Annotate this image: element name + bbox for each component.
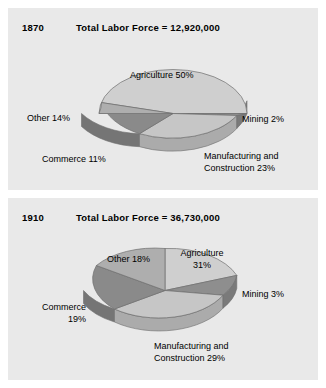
panel-1870: 1870 Total Labor Force = 12,920,000 xyxy=(8,8,318,190)
label-other-1870: Other 14% xyxy=(27,113,70,125)
label-agriculture-1870: Agriculture 50% xyxy=(130,70,194,82)
figure-root: 1870 Total Labor Force = 12,920,000 xyxy=(0,0,326,388)
label-commerce-1910-line2: 19% xyxy=(68,314,86,324)
label-commerce-1870: Commerce 11% xyxy=(42,154,106,166)
label-agriculture-1910-line1: Agriculture xyxy=(180,248,223,258)
label-manufacturing-1910-line1: Manufacturing and xyxy=(154,341,229,351)
label-agriculture-1910-line2: 31% xyxy=(193,260,211,270)
label-manufacturing-1910: Manufacturing and Construction 29% xyxy=(154,341,229,364)
label-mining-1870: Mining 2% xyxy=(242,114,284,126)
label-other-1910: Other 18% xyxy=(107,254,150,266)
panel-1910: 1910 Total Labor Force = 36,730,000 xyxy=(8,198,318,380)
label-manufacturing-1870: Manufacturing and Construction 23% xyxy=(204,151,279,174)
label-commerce-1910-line1: Commerce xyxy=(42,302,86,312)
label-manufacturing-1870-line1: Manufacturing and xyxy=(204,151,279,161)
label-agriculture-1910: Agriculture 31% xyxy=(166,248,238,271)
label-manufacturing-1870-line2: Construction 23% xyxy=(204,163,275,173)
label-manufacturing-1910-line2: Construction 29% xyxy=(154,353,225,363)
label-commerce-1910: Commerce 19% xyxy=(20,302,86,325)
label-mining-1910: Mining 3% xyxy=(242,289,284,301)
